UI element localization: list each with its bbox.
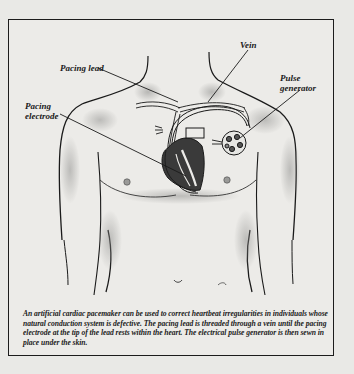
label-pacing-lead: Pacing lead <box>60 63 104 73</box>
label-pulse-generator-line1: Pulse <box>280 73 316 83</box>
label-pacing-electrode-line2: electrode <box>25 111 58 121</box>
navel <box>174 280 182 282</box>
label-vein: Vein <box>240 40 257 50</box>
pulse-generator-device <box>222 131 246 155</box>
label-pulse-generator-line2: generator <box>280 83 316 93</box>
left-nipple <box>124 179 130 185</box>
figure-caption: An artificial cardiac pacemaker can be u… <box>23 309 328 347</box>
label-pulse-generator: Pulse generator <box>280 73 316 93</box>
neck <box>140 52 218 82</box>
label-pacing-electrode: Pacing electrode <box>25 101 58 121</box>
right-nipple <box>224 177 230 183</box>
label-pacing-electrode-line1: Pacing <box>25 101 58 111</box>
skin-shading <box>60 106 300 270</box>
heart <box>162 128 204 192</box>
